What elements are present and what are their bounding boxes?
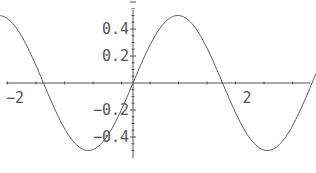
chart: −4−2246−0.4−0.20.20.4 [0, 0, 316, 173]
ticks [0, 2, 316, 151]
y-tick-label: 0.4 [102, 20, 129, 38]
y-tick-label: 0.2 [102, 47, 129, 65]
x-tick-label: 2 [242, 89, 251, 107]
x-tick-label: −2 [6, 89, 24, 107]
